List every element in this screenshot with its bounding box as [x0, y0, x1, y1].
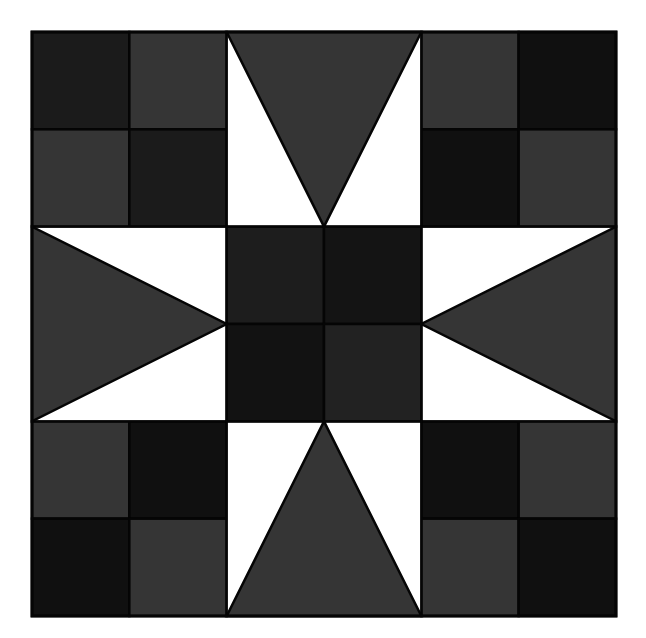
corner-bottom-left-patch-1 [32, 421, 129, 518]
corner-bottom-left-patch-4 [129, 519, 226, 616]
center-patch-1 [227, 227, 324, 324]
center-patch-4 [324, 324, 421, 421]
corner-top-right-patch-3 [421, 129, 518, 226]
quilt-block [0, 0, 646, 638]
corner-top-right-patch-4 [519, 129, 616, 226]
corner-bottom-right-patch-1 [421, 421, 518, 518]
corner-bottom-right-patch-4 [519, 519, 616, 616]
corner-bottom-right-patch-3 [421, 519, 518, 616]
center-four-patch [227, 227, 422, 422]
corner-top-left-patch-4 [129, 129, 226, 226]
corner-bottom-left-patch-3 [32, 519, 129, 616]
center-patch-3 [227, 324, 324, 421]
corner-top-left-patch-2 [129, 32, 226, 129]
center-patch-2 [324, 227, 421, 324]
corner-top-right-patch-2 [519, 32, 616, 129]
corner-bottom-left-patch-2 [129, 421, 226, 518]
corner-bottom-right-patch-2 [519, 421, 616, 518]
corner-top-left-patch-1 [32, 32, 129, 129]
corner-top-left-patch-3 [32, 129, 129, 226]
corner-top-right-patch-1 [421, 32, 518, 129]
